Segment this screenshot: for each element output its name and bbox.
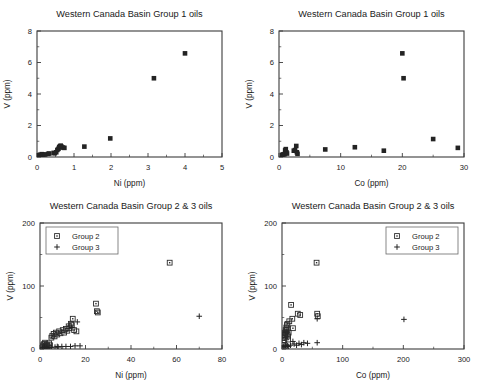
data-point	[401, 76, 406, 81]
data-point	[400, 51, 405, 56]
y-tick-label: 0	[31, 345, 35, 354]
data-point-center	[70, 323, 71, 324]
y-tick-label: 100	[22, 282, 35, 291]
data-point	[62, 146, 67, 151]
y-tick-label: 0	[28, 153, 32, 162]
data-point-center	[286, 324, 287, 325]
y-axis-label: V (ppm)	[6, 271, 15, 300]
legend-entry-label: Group 3	[72, 243, 99, 252]
x-axis-label: Co (ppm)	[356, 371, 390, 380]
y-tick-label: 6	[270, 58, 274, 67]
y-tick-label: 100	[264, 282, 277, 291]
x-tick-label: 30	[460, 163, 468, 172]
panel-title: Western Canada Basin Group 2 & 3 oils	[292, 201, 455, 211]
x-tick-label: 5	[220, 163, 224, 172]
data-point	[431, 137, 436, 142]
legend-entry-label: Group 3	[412, 243, 439, 252]
y-axis-label: V (ppm)	[248, 271, 257, 300]
data-point-center	[292, 318, 293, 319]
y-tick-label: 200	[264, 219, 277, 228]
data-point-center	[316, 262, 317, 263]
x-axis-label: Ni (ppm)	[115, 371, 147, 380]
data-point-center	[169, 262, 170, 263]
x-tick-label: 3	[146, 163, 150, 172]
x-tick-label: 0	[277, 163, 281, 172]
x-tick-label: 0	[35, 163, 39, 172]
y-tick-label: 200	[22, 219, 35, 228]
panel-title: Western Canada Basin Group 2 & 3 oils	[50, 201, 213, 211]
data-point	[183, 51, 188, 56]
y-tick-label: 2	[270, 121, 274, 130]
y-axis-label: V (ppm)	[245, 79, 254, 108]
legend-entry-label: Group 2	[72, 232, 99, 241]
data-point	[294, 144, 299, 149]
x-tick-label: 40	[127, 355, 135, 364]
x-axis-label: Ni (ppm)	[114, 179, 146, 188]
x-tick-label: 20	[398, 163, 406, 172]
data-point	[295, 152, 300, 157]
x-tick-label: 300	[458, 355, 471, 364]
data-point	[108, 136, 113, 141]
y-tick-label: 4	[28, 90, 32, 99]
data-point-center	[287, 339, 288, 340]
data-point-center	[290, 304, 291, 305]
y-tick-label: 8	[270, 27, 274, 36]
data-point-center	[72, 318, 73, 319]
data-point	[47, 151, 52, 156]
panel-title: Western Canada Basin Group 1 oils	[56, 9, 203, 19]
y-tick-label: 4	[270, 90, 274, 99]
x-tick-label: 4	[183, 163, 187, 172]
y-tick-label: 8	[28, 27, 32, 36]
y-tick-label: 6	[28, 58, 32, 67]
data-point	[323, 147, 328, 152]
x-tick-label: 2	[109, 163, 113, 172]
data-point-center	[97, 312, 98, 313]
x-tick-label: 100	[336, 355, 349, 364]
data-point	[353, 145, 358, 150]
x-tick-label: 20	[81, 355, 89, 364]
x-tick-label: 200	[397, 355, 410, 364]
data-point-center	[300, 314, 301, 315]
y-tick-label: 2	[28, 121, 32, 130]
data-point	[82, 144, 87, 149]
data-point-center	[76, 331, 77, 332]
x-tick-label: 0	[280, 355, 284, 364]
data-point-center	[95, 303, 96, 304]
legend-entry-label: Group 2	[412, 232, 439, 241]
data-point	[382, 148, 387, 153]
data-point-center	[284, 339, 285, 340]
legend-marker-open-square-center	[396, 235, 397, 236]
x-axis-label: Co (ppm)	[354, 179, 388, 188]
panel-title: Western Canada Basin Group 1 oils	[298, 9, 445, 19]
data-point	[152, 76, 157, 81]
data-point-center	[96, 311, 97, 312]
y-axis-label: V (ppm)	[3, 79, 12, 108]
x-tick-label: 10	[336, 163, 344, 172]
legend-marker-open-square-center	[56, 235, 57, 236]
x-tick-label: 1	[72, 163, 76, 172]
y-tick-label: 0	[273, 345, 277, 354]
y-tick-label: 0	[270, 153, 274, 162]
data-point-center	[292, 328, 293, 329]
x-tick-label: 80	[218, 355, 226, 364]
data-point	[285, 151, 290, 156]
data-point-center	[288, 332, 289, 333]
x-tick-label: 0	[38, 355, 42, 364]
data-point	[456, 146, 461, 151]
figure-four-scatter-panels: Western Canada Basin Group 1 oils0123450…	[0, 0, 483, 386]
x-tick-label: 60	[172, 355, 180, 364]
